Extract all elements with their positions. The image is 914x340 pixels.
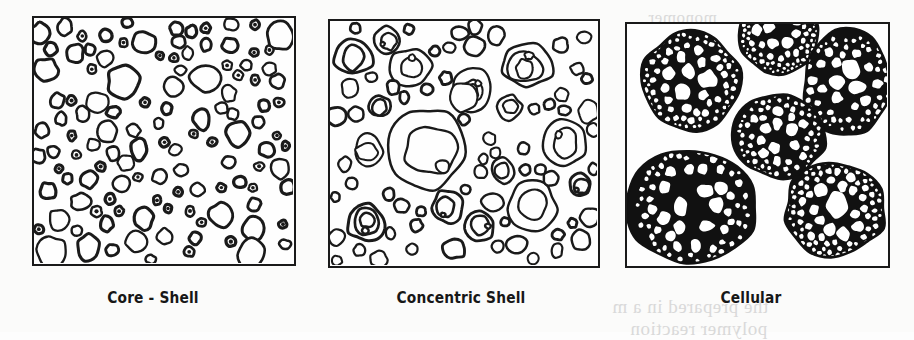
- core-shell-pattern: [34, 18, 293, 263]
- caption-cellular: Cellular: [631, 288, 872, 307]
- core-shell-frame: [32, 16, 296, 266]
- cellular-pattern: [627, 24, 887, 265]
- caption-core-shell: Core - Shell: [33, 288, 274, 307]
- concentric-shell-frame: [328, 19, 600, 268]
- concentric-shell-pattern: [330, 21, 597, 265]
- cellular-frame: [625, 22, 890, 268]
- bleed-text: polymer reaction: [630, 318, 767, 340]
- caption-concentric-shell: Concentric Shell: [341, 288, 582, 307]
